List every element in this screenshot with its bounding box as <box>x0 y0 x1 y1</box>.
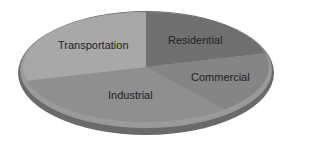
label-transportation: Transportation <box>58 39 129 51</box>
label-commercial: Commercial <box>191 71 250 83</box>
label-industrial: Industrial <box>108 89 153 101</box>
label-residential: Residential <box>168 34 222 46</box>
